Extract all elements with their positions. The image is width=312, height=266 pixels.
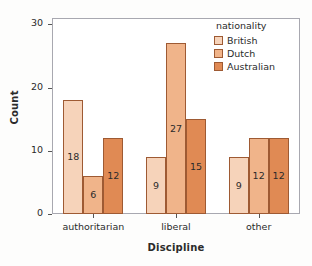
bar-value-label: 9 [236,180,242,191]
legend-item: British [214,34,298,46]
y-axis-tick-mark [48,151,52,152]
bar-value-label: 12 [253,170,265,181]
bar-value-label: 15 [190,161,202,172]
bar-value-label: 12 [107,170,119,181]
y-axis-tick-mark [48,24,52,25]
legend-entries: BritishDutchAustralian [214,34,298,72]
bar-value-label: 9 [153,180,159,191]
x-axis-tick-label: liberal [161,221,191,232]
legend-swatch [214,62,223,71]
legend-swatch [214,49,223,58]
legend-swatch [214,36,223,45]
x-axis-tick-mark [176,214,177,218]
y-axis-tick-mark [48,88,52,89]
legend-item: Dutch [214,47,298,59]
bar: 9 [229,157,249,214]
legend-label: British [227,35,257,46]
y-axis-tick-label: 10 [31,144,43,155]
bar-value-label: 18 [67,151,79,162]
y-axis-tick-mark [48,214,52,215]
bar: 18 [63,100,83,214]
x-axis-tick-label: other [246,221,271,232]
bar: 27 [166,43,186,214]
bar: 12 [269,138,289,214]
legend-label: Dutch [227,48,255,59]
bar-value-label: 27 [170,123,182,134]
legend-label: Australian [227,61,275,72]
legend: nationality BritishDutchAustralian [214,20,298,73]
bar-chart: Count 0102030 authoritarianliberalother … [0,0,312,266]
x-axis-tick-label: authoritarian [62,221,124,232]
bar: 15 [186,119,206,214]
y-axis-tick-label: 0 [37,207,43,218]
x-axis-tick-mark [93,214,94,218]
bar: 9 [146,157,166,214]
y-axis-tick-label: 30 [31,17,43,28]
legend-item: Australian [214,60,298,72]
bar: 6 [83,176,103,214]
bar-value-label: 6 [90,189,96,200]
y-axis-tick-label: 20 [31,81,43,92]
bar: 12 [249,138,269,214]
x-axis-tick-mark [259,214,260,218]
bar: 12 [103,138,123,214]
y-axis-title: Count [4,0,24,214]
bar-value-label: 12 [273,170,285,181]
legend-title: nationality [214,20,298,31]
x-axis-title: Discipline [52,242,300,253]
y-axis-title-text: Count [9,90,20,124]
